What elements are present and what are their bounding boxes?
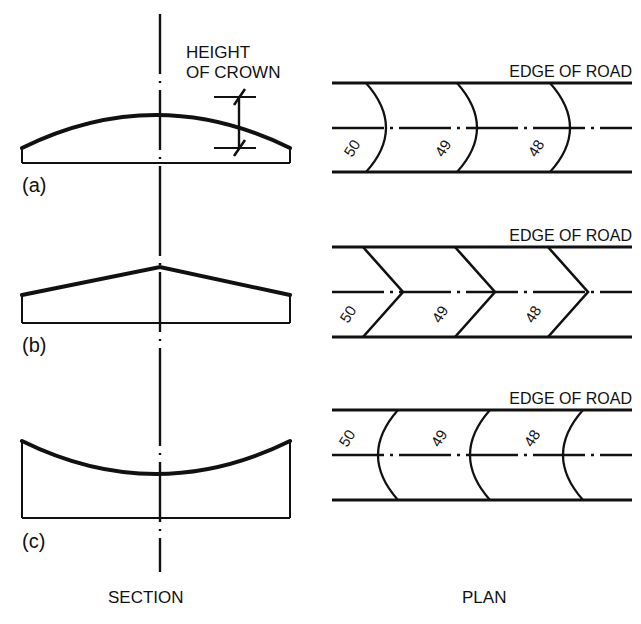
figure-canvas: HEIGHT OF CROWN (a) (b) [0, 0, 641, 624]
edge-of-road-label-a: EDGE OF ROAD [509, 63, 632, 80]
row-label-a: (a) [22, 174, 46, 196]
plan-b-contour-label-48: 48 [521, 302, 544, 325]
height-of-crown-line2: OF CROWN [186, 63, 280, 82]
caption-section: SECTION [108, 588, 184, 607]
height-of-crown-line1: HEIGHT [186, 43, 250, 62]
section-b-crown-profile [22, 267, 290, 295]
caption-plan: PLAN [462, 588, 506, 607]
plan-a-contour-label-50: 50 [340, 136, 363, 159]
plan-b: EDGE OF ROAD 50 49 48 [332, 227, 632, 337]
plan-b-contour-label-50: 50 [336, 302, 359, 325]
road-crown-figure: HEIGHT OF CROWN (a) (b) [0, 0, 641, 624]
section-a [22, 115, 290, 163]
edge-of-road-label-c: EDGE OF ROAD [509, 390, 632, 407]
plan-c-contour-label-49: 49 [427, 426, 450, 449]
plan-b-contour-label-49: 49 [428, 302, 451, 325]
section-a-crown-profile [22, 115, 290, 148]
section-c-crown-profile [22, 441, 290, 474]
row-label-b: (b) [22, 334, 46, 356]
plan-c-contour-label-48: 48 [520, 426, 543, 449]
plan-a: EDGE OF ROAD 50 49 48 [332, 63, 632, 172]
section-b [22, 267, 290, 323]
section-c [22, 441, 290, 518]
edge-of-road-label-b: EDGE OF ROAD [509, 227, 632, 244]
plan-a-contour-label-49: 49 [431, 136, 454, 159]
plan-c-contour-label-50: 50 [335, 426, 358, 449]
plan-a-contour-label-48: 48 [524, 136, 547, 159]
plan-c: EDGE OF ROAD 50 49 48 [332, 390, 632, 500]
row-label-c: (c) [22, 530, 45, 552]
